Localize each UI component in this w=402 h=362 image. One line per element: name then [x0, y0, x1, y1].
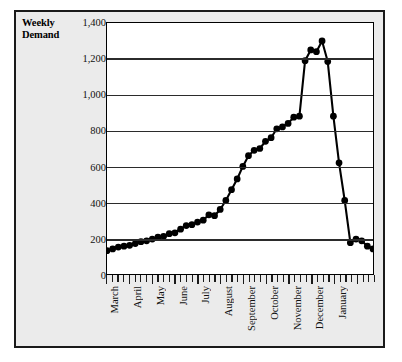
x-tick	[135, 275, 136, 282]
x-tick	[243, 275, 244, 284]
x-tick	[306, 275, 307, 282]
x-tick	[311, 275, 312, 284]
month-label: June	[178, 286, 189, 305]
x-tick	[323, 275, 324, 282]
line-path	[107, 41, 373, 251]
month-label: July	[200, 286, 211, 304]
data-point	[336, 159, 343, 166]
x-tick	[351, 275, 352, 282]
month-label: March	[109, 286, 120, 313]
gridline	[107, 239, 373, 240]
data-point	[245, 152, 252, 159]
x-tick	[260, 275, 261, 282]
data-point	[256, 145, 263, 152]
data-point	[234, 176, 241, 183]
gridline	[107, 167, 373, 168]
x-tick	[186, 275, 187, 282]
x-tick	[163, 275, 164, 282]
y-tick-label: 1,400	[82, 17, 106, 28]
data-point	[211, 212, 218, 219]
x-tick	[220, 275, 221, 284]
x-tick	[231, 275, 232, 282]
x-tick	[152, 275, 153, 284]
month-label: May	[155, 286, 166, 305]
x-tick	[277, 275, 278, 282]
y-tick-label: 800	[90, 125, 106, 136]
x-tick	[340, 275, 341, 282]
data-point	[228, 186, 235, 193]
x-tick	[117, 275, 118, 282]
data-point	[183, 222, 190, 229]
x-tick	[129, 275, 130, 284]
y-tick-label: 200	[90, 233, 106, 244]
x-tick	[254, 275, 255, 282]
x-tick	[209, 275, 210, 282]
x-tick	[368, 275, 369, 282]
data-point	[200, 217, 207, 224]
month-label: November	[292, 286, 303, 330]
data-point	[319, 38, 326, 45]
data-point	[172, 229, 179, 236]
x-tick	[294, 275, 295, 282]
month-label: August	[223, 286, 234, 316]
data-point	[279, 124, 286, 131]
x-tick	[214, 275, 215, 282]
gridline	[107, 131, 373, 132]
x-tick	[112, 275, 113, 282]
gridline	[107, 58, 373, 59]
x-tick	[157, 275, 158, 282]
x-tick	[169, 275, 170, 282]
data-point	[313, 48, 320, 55]
x-tick	[226, 275, 227, 282]
x-tick	[374, 275, 375, 282]
x-tick	[174, 275, 175, 284]
month-label: January	[337, 286, 348, 319]
x-tick	[237, 275, 238, 282]
gridline	[107, 203, 373, 204]
gridline	[107, 95, 373, 96]
x-tick	[317, 275, 318, 282]
x-tick	[197, 275, 198, 284]
x-tick	[283, 275, 284, 282]
y-tick-label: 600	[90, 161, 106, 172]
chart-frame: Weekly Demand 02004006008001,0001,2001,4…	[14, 10, 385, 348]
x-tick	[328, 275, 329, 282]
x-axis-month-labels: MarchAprilMayJuneJulyAugustSeptemberOcto…	[106, 286, 374, 346]
y-tick-label: 1,000	[82, 89, 106, 100]
data-point	[121, 243, 128, 250]
x-tick	[363, 275, 364, 282]
x-tick	[180, 275, 181, 282]
data-point	[115, 244, 122, 251]
y-axis-tick-labels: 02004006008001,0001,2001,400	[62, 12, 106, 350]
x-axis-ticks	[106, 275, 374, 284]
demand-line-series	[107, 23, 373, 274]
y-tick-label: 400	[90, 197, 106, 208]
data-point	[285, 120, 292, 127]
x-tick	[146, 275, 147, 282]
data-point	[290, 114, 297, 121]
x-tick	[345, 275, 346, 282]
data-point	[177, 226, 184, 233]
x-tick	[192, 275, 193, 282]
data-point	[205, 211, 212, 218]
x-tick	[123, 275, 124, 282]
x-tick	[266, 275, 267, 284]
x-tick	[249, 275, 250, 282]
data-point	[262, 138, 269, 145]
plot-area	[106, 22, 374, 275]
x-tick	[288, 275, 289, 284]
y-tick-label: 1,200	[82, 53, 106, 64]
data-point	[268, 134, 275, 141]
month-label: December	[314, 286, 325, 329]
data-point-markers	[107, 38, 373, 255]
data-point	[217, 206, 224, 213]
month-label: September	[246, 286, 257, 331]
data-point	[296, 113, 303, 120]
month-label: April	[132, 286, 143, 308]
x-tick	[106, 275, 107, 284]
x-tick	[140, 275, 141, 282]
data-point	[166, 230, 173, 237]
data-point	[330, 113, 337, 120]
x-tick	[357, 275, 358, 284]
x-tick	[271, 275, 272, 282]
